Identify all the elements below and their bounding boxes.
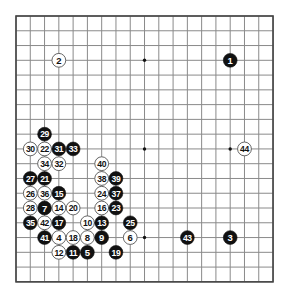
move-number: 7 xyxy=(42,203,47,214)
move-number: 17 xyxy=(54,218,63,228)
move-number: 36 xyxy=(40,189,49,199)
black-stone[interactable]: 35 xyxy=(23,216,37,230)
black-stone[interactable]: 33 xyxy=(66,142,80,156)
white-stone[interactable]: 38 xyxy=(95,172,109,186)
move-number: 32 xyxy=(54,159,63,169)
black-stone[interactable]: 25 xyxy=(123,216,137,230)
move-number: 22 xyxy=(40,144,49,154)
black-stone[interactable]: 31 xyxy=(52,142,66,156)
white-stone[interactable]: 10 xyxy=(81,216,95,230)
white-stone[interactable]: 18 xyxy=(66,231,80,245)
move-number: 3 xyxy=(228,232,233,243)
star-point-icon xyxy=(143,147,146,150)
move-number: 12 xyxy=(54,248,63,258)
white-stone[interactable]: 42 xyxy=(38,216,52,230)
move-number: 11 xyxy=(69,248,78,258)
white-stone[interactable]: 40 xyxy=(95,157,109,171)
black-stone[interactable]: 5 xyxy=(81,245,95,259)
move-number: 18 xyxy=(69,233,78,243)
black-stone[interactable]: 27 xyxy=(23,172,37,186)
black-stone[interactable]: 41 xyxy=(38,231,52,245)
move-number: 6 xyxy=(128,232,133,243)
move-number: 25 xyxy=(126,218,135,228)
move-number: 15 xyxy=(54,189,63,199)
black-stone[interactable]: 7 xyxy=(38,201,52,215)
move-number: 24 xyxy=(97,189,106,199)
move-number: 33 xyxy=(69,144,78,154)
move-number: 42 xyxy=(40,218,49,228)
black-stone[interactable]: 39 xyxy=(109,172,123,186)
star-point-icon xyxy=(143,59,146,62)
white-stone[interactable]: 14 xyxy=(52,201,66,215)
star-point-icon xyxy=(143,236,146,239)
move-number: 30 xyxy=(26,144,35,154)
white-stone[interactable]: 32 xyxy=(52,157,66,171)
white-stone[interactable]: 36 xyxy=(38,186,52,200)
black-stone[interactable]: 21 xyxy=(38,172,52,186)
move-number: 21 xyxy=(40,174,49,184)
move-number: 31 xyxy=(54,144,63,154)
black-stone[interactable]: 37 xyxy=(109,186,123,200)
white-stone[interactable]: 20 xyxy=(66,201,80,215)
white-stone[interactable]: 6 xyxy=(123,231,137,245)
white-stone[interactable]: 2 xyxy=(52,53,66,67)
move-number: 28 xyxy=(26,203,35,213)
move-number: 26 xyxy=(26,189,35,199)
move-number: 23 xyxy=(112,203,121,213)
black-stone[interactable]: 19 xyxy=(109,245,123,259)
white-stone[interactable]: 16 xyxy=(95,201,109,215)
move-number: 27 xyxy=(26,174,35,184)
white-stone[interactable]: 28 xyxy=(23,201,37,215)
black-stone[interactable]: 13 xyxy=(95,216,109,230)
move-number: 43 xyxy=(183,233,192,243)
white-stone[interactable]: 8 xyxy=(81,231,95,245)
move-number: 14 xyxy=(54,203,63,213)
move-number: 35 xyxy=(26,218,35,228)
black-stone[interactable]: 15 xyxy=(52,186,66,200)
move-number: 16 xyxy=(97,203,106,213)
move-number: 10 xyxy=(83,218,92,228)
black-stone[interactable]: 23 xyxy=(109,201,123,215)
move-number: 8 xyxy=(85,232,90,243)
move-number: 29 xyxy=(40,129,49,139)
go-board[interactable]: 1234567891011121314151617181920212223242… xyxy=(0,0,286,295)
black-stone[interactable]: 43 xyxy=(180,231,194,245)
black-stone[interactable]: 29 xyxy=(38,127,52,141)
white-stone[interactable]: 4 xyxy=(52,231,66,245)
white-stone[interactable]: 34 xyxy=(38,157,52,171)
star-point-icon xyxy=(229,147,232,150)
move-number: 2 xyxy=(56,55,61,66)
move-number: 19 xyxy=(112,248,121,258)
move-number: 40 xyxy=(97,159,106,169)
black-stone[interactable]: 11 xyxy=(66,245,80,259)
white-stone[interactable]: 44 xyxy=(238,142,252,156)
white-stone[interactable]: 22 xyxy=(38,142,52,156)
move-number: 13 xyxy=(97,218,106,228)
black-stone[interactable]: 9 xyxy=(95,231,109,245)
white-stone[interactable]: 24 xyxy=(95,186,109,200)
move-number: 20 xyxy=(69,203,78,213)
black-stone[interactable]: 1 xyxy=(223,53,237,67)
move-number: 44 xyxy=(240,144,249,154)
move-number: 1 xyxy=(228,55,234,66)
move-number: 4 xyxy=(56,232,62,243)
black-stone[interactable]: 3 xyxy=(223,231,237,245)
black-stone[interactable]: 17 xyxy=(52,216,66,230)
white-stone[interactable]: 30 xyxy=(23,142,37,156)
move-number: 34 xyxy=(40,159,49,169)
move-number: 39 xyxy=(112,174,121,184)
white-stone[interactable]: 26 xyxy=(23,186,37,200)
move-number: 41 xyxy=(40,233,49,243)
move-number: 38 xyxy=(97,174,106,184)
move-number: 5 xyxy=(85,247,91,258)
move-number: 37 xyxy=(112,189,121,199)
white-stone[interactable]: 12 xyxy=(52,245,66,259)
move-number: 9 xyxy=(99,232,104,243)
